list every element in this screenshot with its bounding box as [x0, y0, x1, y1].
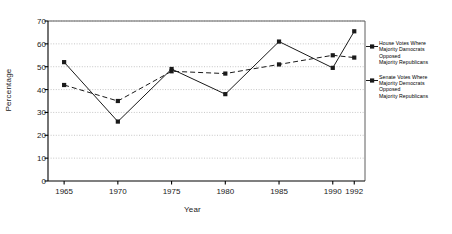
- legend-entry-1[interactable]: Senate Votes WhereMajority DemocratsOppo…: [366, 74, 452, 100]
- x-axis-ticks: 1965197019751980198519901992: [0, 0, 452, 234]
- chart-figure: Percentage 010203040506070 1965197019751…: [0, 0, 452, 234]
- x-tick-label: 1985: [270, 187, 288, 196]
- legend-label-line: Majority Republicans: [379, 59, 452, 65]
- legend-label: Senate Votes WhereMajority DemocratsOppo…: [379, 74, 452, 100]
- x-tick-label: 1992: [345, 187, 363, 196]
- x-tick-label: 1965: [55, 187, 73, 196]
- legend-entry-0[interactable]: House Votes WhereMajority DamocratsOppos…: [366, 40, 452, 66]
- x-tick-label: 1970: [109, 187, 127, 196]
- x-axis-title: Year: [0, 205, 385, 214]
- x-tick-label: 1980: [216, 187, 234, 196]
- legend-marker-icon: [366, 44, 378, 49]
- x-tick-label: 1990: [324, 187, 342, 196]
- chart-legend: House Votes WhereMajority DamocratsOppos…: [366, 40, 452, 107]
- legend-marker-icon: [366, 78, 378, 83]
- x-tick-label: 1975: [163, 187, 181, 196]
- legend-label-line: Majority Republicans: [379, 93, 452, 99]
- legend-label: House Votes WhereMajority DamocratsOppos…: [379, 40, 452, 66]
